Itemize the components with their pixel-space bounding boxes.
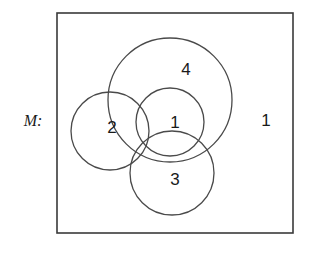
region-label-3: 3 bbox=[170, 170, 179, 189]
venn-diagram-screenshot: M: 4 2 3 1 1 bbox=[0, 0, 310, 254]
region-label-4: 4 bbox=[181, 60, 190, 79]
region-label-outside: 1 bbox=[261, 111, 270, 130]
region-label-2: 2 bbox=[107, 118, 116, 137]
region-label-1: 1 bbox=[170, 113, 179, 132]
universe-set-label: M: bbox=[23, 112, 43, 129]
set-circle-4 bbox=[108, 38, 232, 162]
venn-diagram-canvas: M: 4 2 3 1 1 bbox=[0, 0, 310, 254]
